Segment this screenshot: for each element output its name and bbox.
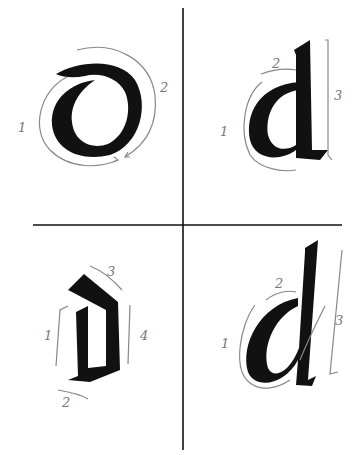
foundational-d-letter — [249, 40, 328, 160]
blackletter-d-letter — [68, 274, 120, 382]
label-1: 1 — [18, 120, 26, 135]
stroke-1-arrow — [56, 306, 68, 366]
stroke-4-arrow — [128, 305, 130, 364]
label-2: 2 — [274, 276, 283, 291]
label-1: 1 — [44, 328, 52, 343]
label-3: 3 — [335, 313, 343, 328]
italic-d-letter — [246, 240, 318, 386]
stroke-3-arrow — [330, 250, 342, 374]
label-3: 3 — [107, 264, 115, 279]
label-2: 2 — [61, 395, 70, 410]
label-4: 4 — [139, 328, 148, 343]
label-1: 1 — [220, 124, 228, 139]
label-3: 3 — [334, 88, 342, 103]
stroke-2-arrow — [266, 291, 296, 300]
stroke-3-arrow — [325, 40, 332, 160]
label-1: 1 — [221, 336, 229, 351]
stroke-1-arrowhead — [113, 157, 118, 162]
stroke-order-figure: 1 2 1 2 3 1 2 3 4 1 2 3 — [0, 0, 362, 455]
label-2: 2 — [271, 56, 280, 71]
label-2: 2 — [159, 80, 168, 95]
